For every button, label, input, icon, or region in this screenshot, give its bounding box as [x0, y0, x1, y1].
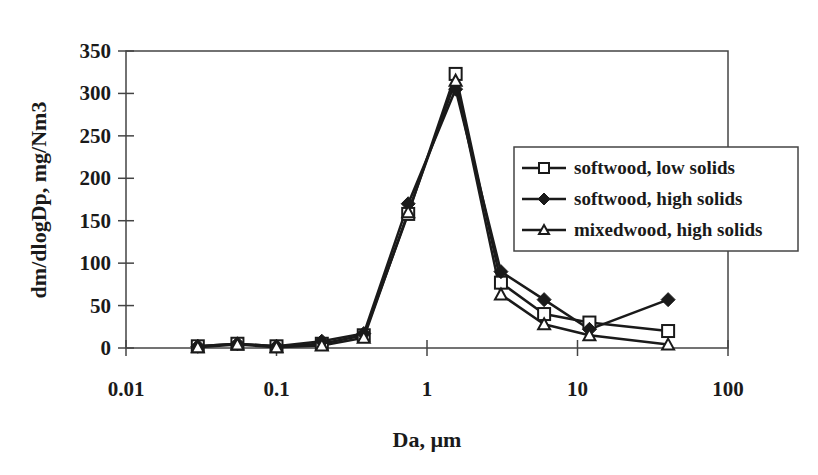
x-tick-label: 100	[712, 377, 744, 401]
legend-label: softwood, high solids	[574, 188, 742, 209]
y-tick-label: 150	[80, 209, 112, 233]
x-tick-label: 0.01	[108, 377, 145, 401]
y-tick-label: 200	[80, 166, 112, 190]
x-tick-label: 0.1	[263, 377, 289, 401]
x-tick-label: 1	[422, 377, 433, 401]
y-tick-label: 50	[90, 294, 111, 318]
square-marker-icon	[539, 163, 549, 173]
y-tick-label: 0	[101, 336, 112, 360]
square-marker-icon	[662, 325, 674, 337]
y-tick-label: 100	[80, 251, 112, 275]
y-axis-title: dm/dlogDp, mg/Nm3	[26, 102, 51, 299]
diamond-marker-icon	[661, 293, 675, 307]
particle-size-distribution-chart: 050100150200250300350 0.010.1110100 dm/d…	[0, 0, 818, 475]
legend: softwood, low solidssoftwood, high solid…	[514, 147, 798, 251]
y-tick-label: 300	[80, 81, 112, 105]
x-tick-label: 10	[567, 377, 588, 401]
x-axis-title: Da, µm	[393, 427, 462, 452]
triangle-marker-icon	[495, 289, 507, 300]
diamond-marker-icon	[537, 293, 551, 307]
legend-label: mixedwood, high solids	[574, 219, 762, 240]
y-tick-label: 350	[80, 39, 112, 63]
y-tick-label: 250	[80, 124, 112, 148]
legend-label: softwood, low solids	[574, 157, 735, 178]
